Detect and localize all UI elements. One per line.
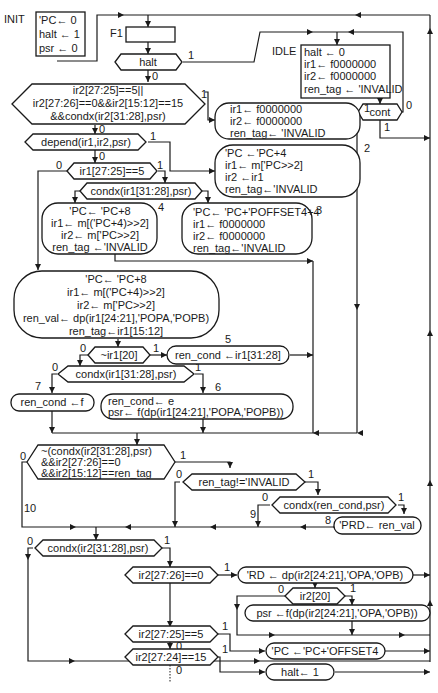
action-2-line-2: ir1← m['PC>>2] <box>225 159 303 171</box>
state-f1: F1 <box>110 27 175 42</box>
decision-ren-tag-valid: ren_tag!='INVALID 1 0 <box>176 468 314 490</box>
ir2-20-yes-label: 1 <box>350 582 356 594</box>
condx-ir2-no-label: 0 <box>27 535 33 547</box>
ir2-halt-text: ir2[27:24]==15 <box>136 651 207 663</box>
squash-yes-label: 1 <box>180 449 186 461</box>
decision-depend: depend(ir1,ir2,psr) 1 0 <box>25 130 156 162</box>
ir2-halt-yes-label: 1 <box>222 643 228 655</box>
wire-halt2-yes <box>212 657 265 672</box>
cont-text: cont <box>370 106 391 118</box>
action-2-number: 2 <box>364 142 370 154</box>
ir2-20-text: ir2[20] <box>300 590 331 602</box>
decision-ir2-alu: ir2[27:26]==0 1 <box>125 561 230 583</box>
hazard-line-2: ir2[27:26]==0&&ir2[15:12]==15 <box>33 97 183 109</box>
action-big: 'PC← 'PC+8 ir1← m[('PC+4)>>2] ir2← m['PC… <box>14 271 219 338</box>
condx-ren-no-label: 0 <box>262 491 268 503</box>
action-big-line-3: ir2← m['PC>>2] <box>77 299 155 311</box>
idle-line-1: halt ← 0 <box>304 46 345 58</box>
decision-halt: halt 1 0 <box>115 49 194 82</box>
depend-no-label: 0 <box>99 150 105 162</box>
not-ir1-20-no-label: 0 <box>80 342 86 354</box>
action-4-number: 4 <box>158 201 164 213</box>
state-idle: IDLE halt ← 0 ir1← f0000000 ir2← f000000… <box>272 45 403 98</box>
depend-text: depend(ir1,ir2,psr) <box>41 136 131 148</box>
action-6: ren_cond← e psr← f(dp(ir1[24:21],'POPA,'… <box>101 381 293 419</box>
decision-hazard: ir2[27:25]==5|| ir2[27:26]==0&&ir2[15:12… <box>12 84 207 135</box>
condx-ren-text: condx(ren_cond,psr) <box>284 499 385 511</box>
ir1-branch-no-label: 0 <box>56 159 62 171</box>
action-rd: 'RD ← dp(ir2[24:21],'OPA,'OPB) <box>238 567 413 583</box>
wire-branch-yes <box>212 634 265 651</box>
action-3: 'PC← 'PC+'POFFSET4+4 ir1← f0000000 ir2← … <box>182 203 322 254</box>
not-ir1-20-yes-label: 1 <box>153 342 159 354</box>
decision-condx-ren: condx(ren_cond,psr) 1 0 <box>262 491 404 513</box>
action-3-line-2: ir1← f0000000 <box>193 218 265 230</box>
idle-label: IDLE <box>272 45 296 57</box>
action-8: 'PRD← ren_val 8 <box>325 514 421 534</box>
action-2-line-3: ir2 ←ir1 <box>225 171 264 183</box>
action-2-line-1: 'PC ←'PC+4 <box>225 147 286 159</box>
idle-line-3: ir2← f0000000 <box>304 70 376 82</box>
ren-tag-valid-text: ren_tag!='INVALID <box>199 476 290 488</box>
action-2: 'PC ←'PC+4 ir1← m['PC>>2] ir2 ←ir1 ren_t… <box>215 142 370 197</box>
not-ir1-20-text: ~ir1[20] <box>101 349 138 361</box>
action-5-line-1: ren_cond ←ir1[31:28] <box>175 349 281 361</box>
action-4: 'PC← 'PC+8 ir1← m[('PC+4)>>2] ir2← m['PC… <box>42 201 164 254</box>
action-5-number: 5 <box>225 333 231 345</box>
action-10-number: 10 <box>24 502 36 514</box>
action-2-line-4: ren_tag←'INVALID <box>225 183 317 195</box>
ir2-alu-yes-label: 1 <box>224 561 230 573</box>
ir2-branch-yes-label: 1 <box>222 620 228 632</box>
cont-no-label: 0 <box>406 99 412 111</box>
action-1: ir1← f0000000 ir2← f0000000 ren_tag← 'IN… <box>215 102 370 139</box>
squash-no-label: 0 <box>20 450 26 462</box>
action-1-line-1: ir1← f0000000 <box>230 103 302 115</box>
action-3-line-3: ir2← f0000000 <box>193 230 265 242</box>
condx-ir1-a-text: condx(ir1[31:28],psr) <box>91 185 192 197</box>
ir2-20-no-label: 0 <box>278 583 284 595</box>
idle-line-4: ren_tag ← 'INVALID <box>304 83 403 95</box>
decision-condx-ir1-a: condx(ir1[31:28],psr) <box>80 183 202 199</box>
decision-not-ir1-20: ~ir1[20] 1 0 <box>80 342 159 363</box>
action-7-line-1: ren_cond ←f <box>21 396 85 408</box>
init-line-2: halt ← 1 <box>39 28 80 40</box>
decision-ir2-20: ir2[20] 1 0 <box>278 582 356 604</box>
action-3-number: 3 <box>316 204 322 216</box>
action-psr: psr ←f(dp(ir2[24:21],'OPA,'OPB)) <box>245 605 430 621</box>
ren-tag-valid-no-label: 0 <box>176 468 182 480</box>
halt-no-label: 0 <box>152 70 158 82</box>
wire-rentag-yes <box>305 482 318 495</box>
action-1-line-2: ir2← f0000000 <box>230 115 302 127</box>
action-rd-line-1: 'RD ← dp(ir2[24:21],'OPA,'OPB) <box>247 569 403 581</box>
ir2-branch-text: ir2[27:25]==5 <box>139 628 204 640</box>
decision-ir1-branch: ir1[27:25]==5 1 0 <box>56 159 163 179</box>
decision-condx-ir2: condx(ir2[31:28],psr) 1 0 <box>27 534 170 556</box>
condx-ir2-text: condx(ir2[31:28],psr) <box>48 542 149 554</box>
condx-ir1-b-no-label: 0 <box>52 361 58 373</box>
squash-line-3: &&ir2[15:12]==ren_tag <box>41 467 152 479</box>
action-8-line-1: 'PRD← ren_val <box>339 519 414 531</box>
condx-ren-yes-label: 1 <box>398 491 404 503</box>
action-7-number: 7 <box>35 380 41 392</box>
action-1-number: 1 <box>364 102 370 114</box>
wire-rentag-no <box>175 482 180 527</box>
init-line-3: psr ← 0 <box>39 42 78 54</box>
ir1-branch-yes-label: 1 <box>157 159 163 171</box>
halt-text: halt <box>139 56 157 68</box>
hazard-no-label: 0 <box>99 123 105 135</box>
action-big-line-5: ren_tag←ir1[15:12] <box>69 325 163 337</box>
action-1-line-3: ren_tag← 'INVALID <box>230 127 325 139</box>
action-big-line-2: ir1← m[('PC+4)>>2] <box>67 286 165 298</box>
depend-yes-label: 1 <box>150 130 156 142</box>
flowchart-canvas: INIT 'PC← 0 halt ← 1 psr ← 0 F1 IDLE hal… <box>0 0 438 693</box>
decision-ir2-branch: ir2[27:25]==5 1 0 <box>125 620 228 652</box>
action-3-line-1: 'PC← 'PC+'POFFSET4+4 <box>193 206 320 218</box>
cont-yes-label: 1 <box>384 121 390 133</box>
action-4-line-2: ir1← m[('PC+4)>>2] <box>51 217 149 229</box>
action-halt-set: halt← 1 <box>266 664 334 680</box>
action-4-line-1: 'PC← 'PC+8 <box>69 205 130 217</box>
action-halt-set-line-1: halt← 1 <box>281 666 319 678</box>
action-6-line-2: psr← f(dp(ir1[24:21],'POPA,'POPB)) <box>108 406 284 418</box>
wire-condxren-no <box>258 505 270 527</box>
f1-box <box>126 27 175 42</box>
